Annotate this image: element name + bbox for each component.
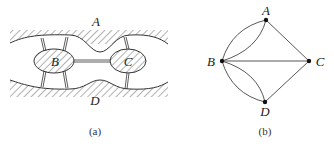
figure-a-map: A B C D (a)	[10, 14, 168, 138]
edge-b-a-1	[222, 20, 266, 61]
edge-b-d-1	[222, 61, 265, 102]
edge-b-a-2	[222, 20, 266, 61]
caption-b: (b)	[259, 125, 272, 138]
node-label-b: B	[207, 54, 215, 69]
bank-a-hatch	[10, 30, 168, 52]
node-b	[220, 59, 224, 63]
bank-d-hatch	[10, 80, 168, 97]
node-label-d: D	[259, 104, 270, 119]
figure-b-graph: A B C D (b)	[207, 3, 325, 138]
edge-a-c	[266, 20, 309, 61]
konigsberg-figure: A B C D (a) A B C D (b)	[0, 0, 334, 149]
caption-a: (a)	[89, 125, 102, 138]
node-label-a: A	[261, 3, 270, 18]
graph-edges	[222, 20, 309, 102]
region-label-d: D	[89, 93, 100, 108]
region-label-c: C	[124, 54, 133, 69]
node-a	[264, 18, 268, 22]
region-label-a: A	[91, 14, 100, 29]
edge-b-d-2	[222, 61, 265, 102]
node-c	[307, 59, 311, 63]
edge-d-c	[265, 61, 309, 102]
region-label-b: B	[51, 54, 59, 69]
node-label-c: C	[316, 54, 325, 69]
